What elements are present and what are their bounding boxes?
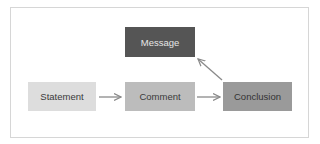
node-statement: Statement: [28, 82, 96, 111]
node-comment: Comment: [125, 82, 195, 111]
node-comment-label: Comment: [139, 91, 180, 102]
node-statement-label: Statement: [40, 91, 83, 102]
node-message: Message: [125, 27, 195, 57]
node-message-label: Message: [141, 37, 180, 48]
node-conclusion-label: Conclusion: [234, 91, 281, 102]
node-conclusion: Conclusion: [223, 82, 292, 111]
